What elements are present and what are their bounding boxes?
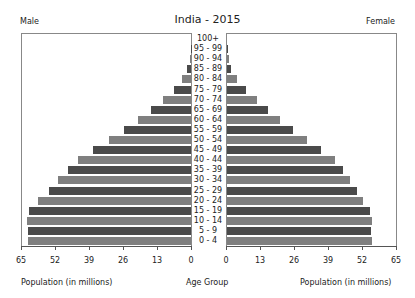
male-bar	[27, 217, 191, 225]
male-bar	[29, 207, 191, 215]
age-group-label: 40 - 44	[190, 155, 226, 165]
female-bar	[227, 207, 370, 215]
female-bar	[227, 217, 372, 225]
x-tick-label: 65	[384, 256, 408, 265]
male-bar	[68, 166, 191, 174]
female-bar	[227, 227, 371, 235]
female-bar	[227, 156, 335, 164]
x-tick	[123, 246, 124, 250]
female-bar	[227, 96, 257, 104]
female-bar	[227, 187, 357, 195]
female-bar	[227, 237, 372, 245]
x-tick	[396, 246, 397, 250]
age-group-label: 85 - 89	[190, 64, 226, 74]
x-tick	[191, 246, 192, 250]
age-group-label: 20 - 24	[190, 196, 226, 206]
chart-title: India - 2015	[0, 13, 415, 26]
age-group-axis-title: Age Group	[186, 278, 228, 287]
female-bar	[227, 146, 321, 154]
female-bar	[227, 45, 228, 53]
female-bar	[227, 55, 229, 63]
x-tick	[226, 246, 227, 250]
age-group-label: 60 - 64	[190, 115, 226, 125]
x-tick	[157, 246, 158, 250]
x-tick-label: 13	[145, 256, 169, 265]
male-bar	[28, 227, 191, 235]
male-bar	[138, 116, 191, 124]
x-tick-label: 26	[282, 256, 306, 265]
x-tick	[260, 246, 261, 250]
age-group-label: 45 - 49	[190, 145, 226, 155]
female-bar	[227, 126, 293, 134]
age-group-label: 25 - 29	[190, 186, 226, 196]
x-tick-label: 13	[248, 256, 272, 265]
x-tick	[328, 246, 329, 250]
x-tick	[89, 246, 90, 250]
female-bar	[227, 136, 307, 144]
male-bar	[174, 86, 191, 94]
x-tick-label: 39	[316, 256, 340, 265]
x-tick-label: 52	[43, 256, 67, 265]
age-group-label: 70 - 74	[190, 95, 226, 105]
female-x-axis-title: Population (in millions)	[300, 278, 391, 287]
female-bar	[227, 197, 363, 205]
age-group-label: 0 - 4	[190, 236, 226, 246]
female-bar	[227, 176, 350, 184]
age-group-label: 90 - 94	[190, 54, 226, 64]
age-group-label: 35 - 39	[190, 165, 226, 175]
female-bar	[227, 75, 237, 83]
x-tick	[294, 246, 295, 250]
female-bar	[227, 106, 268, 114]
x-tick-label: 52	[350, 256, 374, 265]
age-group-label: 50 - 54	[190, 135, 226, 145]
female-bar	[227, 86, 246, 94]
age-group-label: 65 - 69	[190, 105, 226, 115]
male-bar	[38, 197, 191, 205]
age-group-label: 5 - 9	[190, 226, 226, 236]
male-bar	[151, 106, 191, 114]
age-group-label: 80 - 84	[190, 74, 226, 84]
female-bar	[227, 116, 280, 124]
x-tick-label: 65	[9, 256, 33, 265]
male-label: Male	[20, 17, 39, 26]
age-group-label: 100+	[190, 34, 226, 44]
male-bar	[49, 187, 191, 195]
male-bar	[163, 96, 191, 104]
age-group-label: 75 - 79	[190, 85, 226, 95]
female-label: Female	[366, 17, 395, 26]
age-group-label: 95 - 99	[190, 44, 226, 54]
x-tick	[362, 246, 363, 250]
age-group-label: 55 - 59	[190, 125, 226, 135]
age-group-label: 15 - 19	[190, 206, 226, 216]
male-bar	[58, 176, 191, 184]
male-x-axis	[21, 246, 192, 247]
x-tick	[55, 246, 56, 250]
age-group-label: 30 - 34	[190, 175, 226, 185]
x-tick	[21, 246, 22, 250]
male-bar	[109, 136, 191, 144]
x-tick-label: 0	[179, 256, 203, 265]
female-x-axis	[226, 246, 397, 247]
male-bar	[93, 146, 191, 154]
female-bar	[227, 65, 231, 73]
male-x-axis-title: Population (in millions)	[21, 278, 112, 287]
male-bar	[28, 237, 191, 245]
male-bar	[78, 156, 191, 164]
female-bar	[227, 166, 343, 174]
male-bar	[124, 126, 191, 134]
x-tick-label: 39	[77, 256, 101, 265]
x-tick-label: 0	[214, 256, 238, 265]
age-group-label: 10 - 14	[190, 216, 226, 226]
x-tick-label: 26	[111, 256, 135, 265]
